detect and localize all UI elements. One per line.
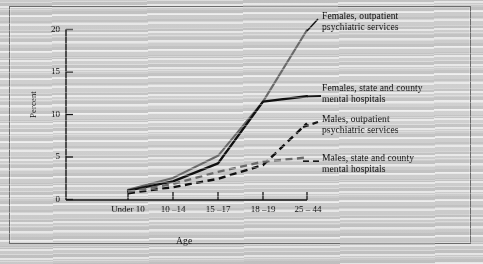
annotation-males-outpatient: Males, outpatient psychiatric services: [322, 114, 399, 136]
y-axis-title: Percent: [28, 91, 38, 118]
y-tick-label-10: 10: [36, 109, 60, 119]
y-tick-label-15: 15: [36, 66, 60, 76]
annotation-males-hospitals: Males, state and county mental hospitals: [322, 153, 414, 175]
annotation-females-hospitals: Females, state and county mental hospita…: [322, 83, 423, 105]
annotation-females-outpatient: Females, outpatient psychiatric services: [322, 11, 399, 33]
y-tick-label-20: 20: [36, 24, 60, 34]
series-line-females-outpatient: [128, 30, 307, 190]
x-axis-ticks: [128, 192, 307, 200]
leader-line-females-hospitals: [307, 96, 321, 97]
chart-figure: 20 15 10 5 0 Percent Under 10 10 –14 15 …: [0, 0, 483, 264]
annotation-leader-lines: [303, 19, 321, 161]
leader-line-females-outpatient: [307, 19, 318, 31]
y-tick-label-0: 0: [36, 194, 60, 204]
y-axis-ticks: [66, 30, 73, 200]
axes: [66, 29, 307, 200]
series-line-females-hospitals: [128, 96, 307, 190]
line-chart-plot: [0, 0, 483, 264]
x-axis-title: Age: [176, 236, 192, 246]
x-tick-label-25-44: 25 – 44: [279, 204, 337, 214]
y-tick-label-5: 5: [36, 151, 60, 161]
